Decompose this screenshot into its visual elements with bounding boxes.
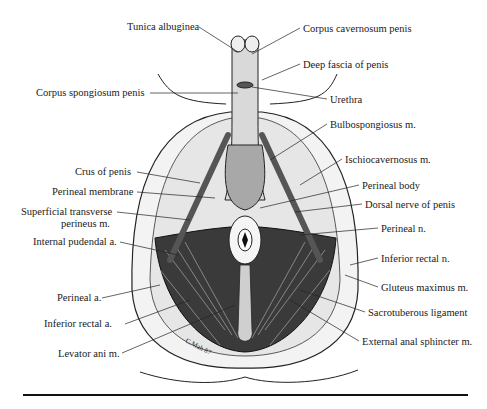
label-bulbospongiosus: Bulbospongiosus m.	[330, 119, 416, 131]
label-urethra: Urethra	[330, 94, 362, 106]
label-perineal-membrane: Perineal membrane	[52, 186, 133, 198]
label-corpus-cavernosum: Corpus cavernosum penis	[303, 23, 411, 35]
label-inferior-rectal-n: Inferior rectal n.	[381, 253, 450, 265]
label-inferior-rectal-a: Inferior rectal a.	[44, 318, 112, 330]
label-superficial-transverse-cont: perineus m.	[61, 218, 110, 230]
label-superficial-transverse: Superficial transverse	[21, 206, 112, 218]
label-ischiocavernosus: Ischiocavernosus m.	[345, 154, 431, 166]
label-perineal-body: Perineal body	[362, 180, 420, 192]
label-corpus-spongiosum: Corpus spongiosum penis	[36, 87, 145, 99]
label-perineal-a: Perineal a.	[57, 292, 101, 304]
label-perineal-n: Perineal n.	[381, 223, 426, 235]
label-internal-pudendal: Internal pudendal a.	[33, 236, 117, 248]
label-tunica-albuginea: Tunica albuginea	[127, 21, 199, 33]
label-dorsal-nerve: Dorsal nerve of penis	[365, 199, 455, 211]
label-sacrotuberous: Sacrotuberous ligament	[368, 307, 467, 319]
label-crus-of-penis: Crus of penis	[75, 166, 131, 178]
label-levator-ani: Levator ani m.	[58, 348, 120, 360]
label-external-anal-sphincter: External anal sphincter m.	[362, 336, 472, 348]
label-deep-fascia: Deep fascia of penis	[303, 59, 388, 71]
label-gluteus-maximus: Gluteus maximus m.	[381, 282, 468, 294]
